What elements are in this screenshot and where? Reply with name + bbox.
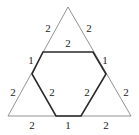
label-outer-left-lower: 2 (10, 86, 16, 98)
label-outer-right-lower: 2 (123, 86, 129, 98)
label-hex-lower-right: 2 (84, 86, 90, 98)
label-outer-top-left: 2 (45, 22, 51, 34)
inner-hexagon (32, 52, 106, 116)
label-outer-bottom-left: 2 (29, 119, 35, 131)
label-hex-lower-left: 2 (49, 86, 55, 98)
label-hex-top: 2 (65, 37, 71, 49)
triangle-hexagon-diagram: 2 2 2 2 2 2 2 1 1 2 2 1 (0, 0, 139, 135)
label-outer-top-right: 2 (86, 22, 92, 34)
label-hex-bottom: 1 (65, 119, 71, 131)
label-outer-bottom-right: 2 (103, 119, 109, 131)
label-hex-upper-right: 1 (102, 54, 108, 66)
label-hex-upper-left: 1 (28, 54, 34, 66)
